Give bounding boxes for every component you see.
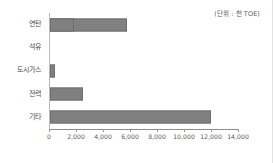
- category-axis-labels: 연탄 석유 도시가스 전력 기타: [0, 13, 46, 129]
- tick-mark: [211, 129, 212, 132]
- bar-row: [49, 13, 238, 36]
- tick-mark: [157, 129, 158, 132]
- tick-label: 2,000: [67, 133, 85, 140]
- category-label-dosigaseu: 도시가스: [17, 59, 41, 82]
- tick-label: 0: [47, 133, 51, 140]
- plot-area: [49, 13, 238, 129]
- bar-seogyu[interactable]: [50, 88, 83, 101]
- category-label-yeontan: 연탄: [29, 13, 41, 36]
- tick-label: 6,000: [121, 133, 139, 140]
- tick-mark: [49, 129, 50, 132]
- tick-label: 12,000: [200, 133, 222, 140]
- tick-mark: [76, 129, 77, 132]
- category-label-gita: 기타: [29, 106, 41, 129]
- bar-yeontan[interactable]: [50, 64, 55, 77]
- bar-row: [49, 59, 238, 82]
- tick-label: 4,000: [94, 133, 112, 140]
- bar-gita[interactable]: [50, 18, 74, 31]
- bar-row: [49, 83, 238, 106]
- tick-label: 8,000: [148, 133, 166, 140]
- tick-mark: [238, 129, 239, 132]
- bar-dosigaseu[interactable]: [50, 111, 211, 124]
- value-axis-ticks: 02,0004,0006,0008,00010,00012,00014,000: [49, 129, 238, 149]
- category-label-jeonryeok: 전력: [29, 83, 41, 106]
- bar-chart-figure: (단위 : 천 TOE) 연탄 석유 도시가스 전력 기타 02,0004,00…: [0, 0, 273, 163]
- bar-row: [49, 106, 238, 129]
- tick-mark: [130, 129, 131, 132]
- tick-label: 10,000: [173, 133, 195, 140]
- tick-mark: [184, 129, 185, 132]
- category-label-seogyu: 석유: [29, 36, 41, 59]
- tick-label: 14,000: [227, 133, 249, 140]
- tick-mark: [103, 129, 104, 132]
